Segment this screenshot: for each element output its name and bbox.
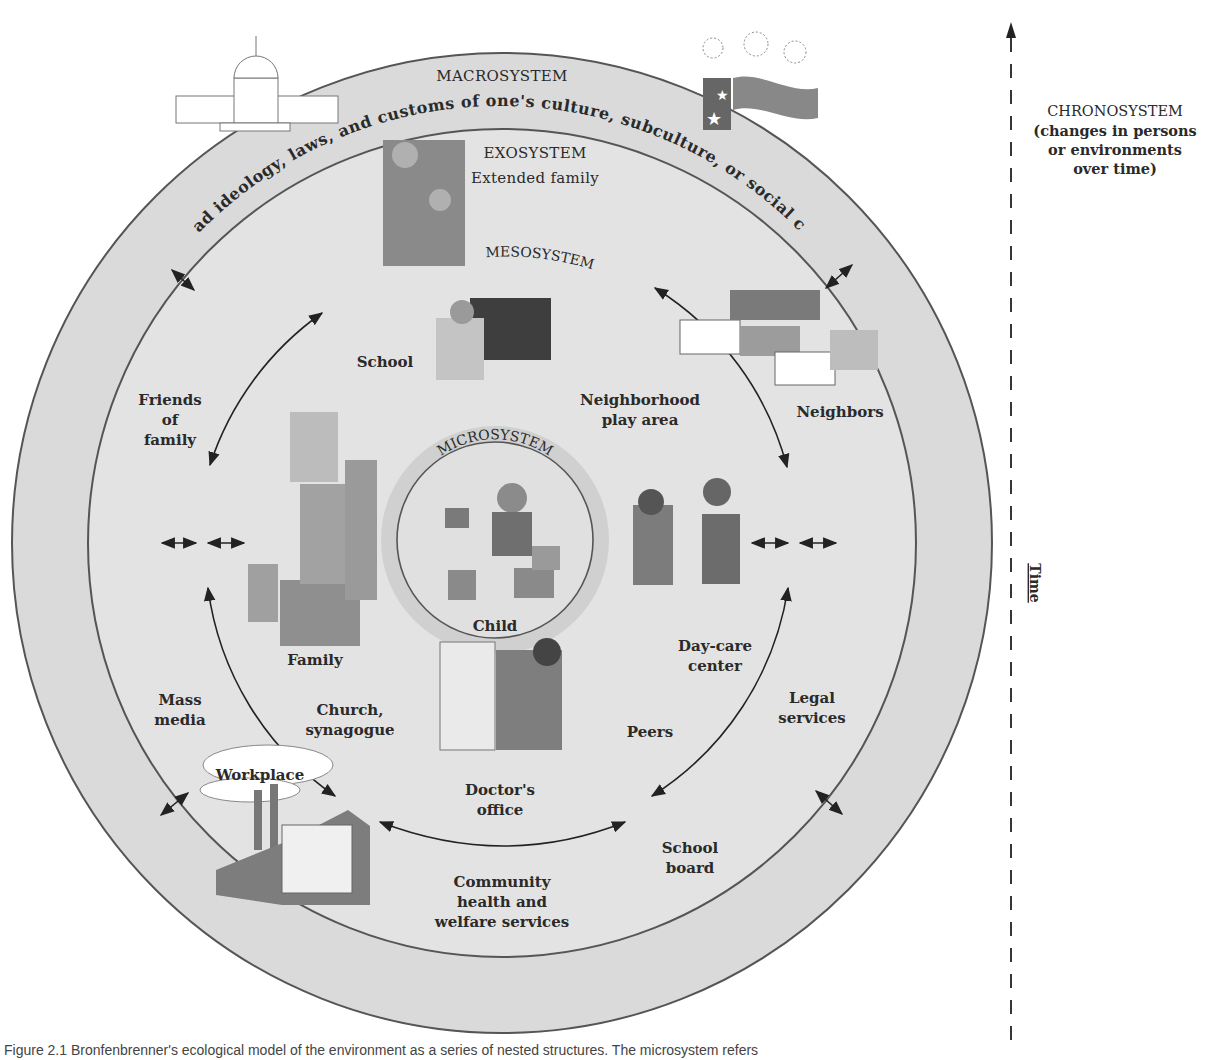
- microsystem-item-day-care-center: Day-care center: [660, 636, 770, 676]
- svg-text:★: ★: [716, 87, 729, 103]
- figure-caption: Figure 2.1 Bronfenbrenner's ecological m…: [4, 1042, 758, 1058]
- microsystem-item-peers: Peers: [610, 722, 690, 742]
- exosystem-item-workplace: Workplace: [200, 765, 320, 785]
- flag-fireworks-icon: ★ ★: [703, 32, 818, 130]
- exosystem-item-friends-of-family: Friends of family: [110, 390, 230, 450]
- capitol-building-icon: [176, 36, 338, 131]
- chronosystem-time-axis: [1006, 22, 1016, 1040]
- microsystem-center-child: Child: [445, 616, 545, 636]
- macrosystem-label: MACROSYSTEM: [412, 66, 592, 86]
- time-axis-label: Time: [1027, 563, 1043, 603]
- chronosystem-description: (changes in persons or environments over…: [1020, 121, 1209, 178]
- ecological-model-diagram: Broad ideology, laws, and customs of one…: [0, 0, 1209, 1060]
- chronosystem-block: CHRONOSYSTEM (changes in persons or envi…: [1020, 102, 1209, 178]
- microsystem-item-church-synagogue: Church, synagogue: [290, 700, 410, 740]
- exosystem-item-mass-media: Mass media: [120, 690, 240, 730]
- exosystem-item-school-board: School board: [630, 838, 750, 878]
- chronosystem-label: CHRONOSYSTEM: [1020, 102, 1209, 121]
- exosystem-label: EXOSYSTEM: [450, 143, 620, 163]
- microsystem-item-school: School: [340, 352, 430, 372]
- microsystem-item-doctors-office: Doctor's office: [450, 780, 550, 820]
- svg-text:★: ★: [706, 108, 722, 129]
- microsystem-item-neighborhood-play-area: Neighborhood play area: [570, 390, 710, 430]
- exosystem-item-legal-services: Legal services: [752, 688, 872, 728]
- exosystem-item-community-health: Community health and welfare services: [412, 872, 592, 932]
- doctors-office-illustration: [440, 638, 562, 750]
- exosystem-item-extended-family: Extended family: [450, 168, 620, 188]
- microsystem-item-family: Family: [270, 650, 360, 670]
- exosystem-item-neighbors: Neighbors: [780, 402, 900, 422]
